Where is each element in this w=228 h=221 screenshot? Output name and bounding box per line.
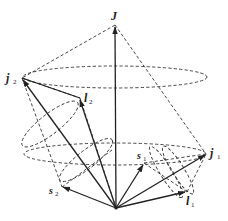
svg-text:1: 1 — [217, 153, 221, 161]
J-vector — [115, 27, 116, 208]
precession-cone-bottom — [24, 143, 206, 165]
s1-vector — [116, 165, 143, 208]
svg-text:2: 2 — [13, 78, 17, 86]
svg-text:l: l — [84, 91, 88, 105]
svg-text:l: l — [186, 194, 190, 208]
svg-text:j: j — [208, 146, 214, 160]
label-J: J — [110, 9, 118, 23]
svg-text:j: j — [4, 71, 10, 85]
origin-point — [114, 206, 117, 209]
svg-text:1: 1 — [143, 155, 147, 163]
j2-line — [22, 78, 80, 98]
label-l2: l 2 — [84, 91, 93, 106]
coupling-diagram: J j 2 l 2 s 2 s 1 j 1 l 1 — [0, 0, 228, 221]
svg-text:s: s — [48, 185, 53, 196]
svg-text:s: s — [136, 150, 141, 161]
label-j2: j 2 — [4, 71, 17, 86]
vectors — [22, 27, 205, 210]
j1-parallelogram — [144, 143, 206, 201]
label-s1: s 1 — [136, 150, 147, 163]
label-j1: j 1 — [208, 146, 221, 161]
l2-vector — [80, 100, 116, 208]
svg-text:2: 2 — [89, 98, 93, 106]
svg-text:1: 1 — [191, 201, 195, 209]
label-s2: s 2 — [48, 185, 59, 198]
svg-text:2: 2 — [55, 190, 59, 198]
label-l1: l 1 — [186, 194, 195, 209]
l1-vector — [116, 192, 185, 208]
